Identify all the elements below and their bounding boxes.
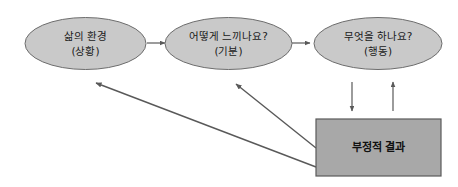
connector-outcome-to-situation [96,83,316,167]
diagram-canvas: 삶의 환경 (상황) 어떻게 느끼나요? (기분) 무엇을 하나요? (행동) … [0,0,458,187]
node-situation[interactable]: 삶의 환경 (상황) [25,18,146,70]
feeling-label-primary: 어떻게 느끼나요? [189,30,268,42]
feeling-label-secondary: (기분) [214,45,242,57]
situation-label-secondary: (상황) [71,45,99,57]
behavior-label-primary: 무엇을 하나요? [344,30,413,42]
situation-label-primary: 삶의 환경 [64,30,107,42]
situation-ellipse-shape [25,18,146,70]
negative-outcome-label: 부정적 결과 [352,140,406,154]
node-negative-outcome[interactable]: 부정적 결과 [316,119,441,176]
connector-outcome-to-feeling [236,84,316,148]
behavior-label-secondary: (행동) [364,45,392,57]
cbt-cycle-diagram: 삶의 환경 (상황) 어떻게 느끼나요? (기분) 무엇을 하나요? (행동) … [0,0,458,187]
node-behavior[interactable]: 무엇을 하나요? (행동) [314,18,442,70]
node-feeling[interactable]: 어떻게 느끼나요? (기분) [165,18,292,70]
behavior-ellipse-shape [314,18,442,70]
feeling-ellipse-shape [165,18,292,70]
